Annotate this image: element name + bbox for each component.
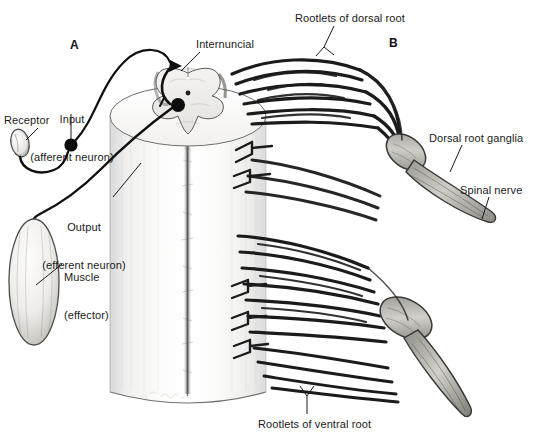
muscle-effector-label: Muscle (effector) xyxy=(64,246,109,346)
muscle-effector-line-2: (effector) xyxy=(64,309,109,322)
internuncial-neuron-label: Internuncial xyxy=(196,38,254,51)
rootlets-of-ventral-root-label: Rootlets of ventral root xyxy=(258,418,371,431)
rootlets-and-nerves-panel-b xyxy=(232,60,495,417)
leader-rootlets-dorsal xyxy=(324,26,334,47)
spinal-cord-cross-section xyxy=(110,67,266,146)
leader-rootlets-dorsal-fork xyxy=(316,47,334,56)
anatomical-figure: A B Receptor Input (afferent neuron) Out… xyxy=(0,0,543,446)
input-afferent-neuron-label: Input (afferent neuron) xyxy=(27,88,117,188)
panel-letter-b: B xyxy=(389,36,398,50)
output-efferent-line-1: Output xyxy=(36,221,132,234)
panel-letter-a: A xyxy=(70,38,79,52)
input-afferent-line-2: (afferent neuron) xyxy=(27,151,117,164)
spinal-nerve-lower-trunk xyxy=(404,330,471,416)
efferent-neuron-cell-body xyxy=(171,98,185,112)
muscle-effector-line-1: Muscle xyxy=(64,271,109,284)
central-canal-dot xyxy=(186,91,191,96)
rootlets-of-ventral-root xyxy=(254,348,398,402)
leader-ganglia xyxy=(450,145,462,172)
leader-internuncial xyxy=(181,52,200,71)
rootlets-of-dorsal-root-label: Rootlets of dorsal root xyxy=(295,12,405,25)
dorsal-root-ganglia-label: Dorsal root ganglia xyxy=(429,132,523,145)
spinal-nerve-label: Spinal nerve xyxy=(460,184,522,197)
input-afferent-line-1: Input xyxy=(27,113,117,126)
